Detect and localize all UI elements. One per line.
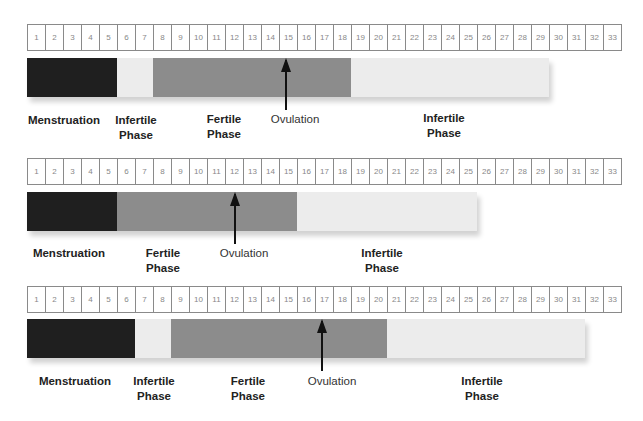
day-cell: 25 bbox=[460, 287, 478, 312]
segment-infertile bbox=[351, 58, 549, 97]
day-cell: 14 bbox=[262, 287, 280, 312]
day-cell: 13 bbox=[244, 25, 262, 50]
day-cell: 9 bbox=[172, 287, 190, 312]
day-cell: 28 bbox=[514, 287, 532, 312]
label-infertile-post: Infertile Phase bbox=[461, 374, 503, 404]
day-cell: 3 bbox=[64, 287, 82, 312]
label-menstruation: Menstruation bbox=[33, 246, 105, 261]
day-cell: 5 bbox=[100, 25, 118, 50]
day-cell: 7 bbox=[136, 287, 154, 312]
segment-fertile bbox=[117, 192, 297, 231]
label-fertile: Fertile Phase bbox=[231, 374, 266, 404]
day-cell: 11 bbox=[208, 287, 226, 312]
day-cell: 15 bbox=[280, 25, 298, 50]
day-cell: 6 bbox=[118, 287, 136, 312]
day-cell: 18 bbox=[334, 25, 352, 50]
day-cell: 25 bbox=[460, 25, 478, 50]
day-cell: 19 bbox=[352, 25, 370, 50]
day-cell: 32 bbox=[586, 25, 604, 50]
day-cell: 19 bbox=[352, 287, 370, 312]
day-cell: 17 bbox=[316, 25, 334, 50]
day-cell: 2 bbox=[46, 25, 64, 50]
day-cell: 10 bbox=[190, 159, 208, 184]
day-cell: 7 bbox=[136, 159, 154, 184]
day-cell: 14 bbox=[262, 159, 280, 184]
day-cell: 23 bbox=[424, 25, 442, 50]
day-cell: 26 bbox=[478, 25, 496, 50]
cycle-bar-3 bbox=[27, 319, 585, 358]
day-cell: 29 bbox=[532, 287, 550, 312]
day-grid-2: 1234567891011121314151617181920212223242… bbox=[27, 158, 622, 185]
day-cell: 6 bbox=[118, 25, 136, 50]
day-cell: 13 bbox=[244, 159, 262, 184]
segment-menstruation bbox=[27, 58, 117, 97]
day-cell: 1 bbox=[28, 25, 46, 50]
day-cell: 22 bbox=[406, 159, 424, 184]
day-cell: 24 bbox=[442, 287, 460, 312]
day-cell: 23 bbox=[424, 159, 442, 184]
ovulation-arrow-icon bbox=[234, 194, 236, 244]
day-cell: 29 bbox=[532, 159, 550, 184]
day-cell: 22 bbox=[406, 25, 424, 50]
day-cell: 27 bbox=[496, 287, 514, 312]
label-infertile-pre: Infertile Phase bbox=[115, 113, 157, 143]
label-infertile-post: Infertile Phase bbox=[361, 246, 403, 276]
day-cell: 23 bbox=[424, 287, 442, 312]
day-cell: 6 bbox=[118, 159, 136, 184]
day-cell: 2 bbox=[46, 287, 64, 312]
day-cell: 33 bbox=[604, 159, 622, 184]
day-cell: 8 bbox=[154, 25, 172, 50]
segment-fertile bbox=[153, 58, 351, 97]
day-cell: 7 bbox=[136, 25, 154, 50]
label-infertile-pre: Infertile Phase bbox=[133, 374, 175, 404]
ovulation-arrow-icon bbox=[321, 321, 323, 371]
day-grid-3: 1234567891011121314151617181920212223242… bbox=[27, 286, 622, 313]
day-cell: 20 bbox=[370, 25, 388, 50]
day-cell: 16 bbox=[298, 287, 316, 312]
day-cell: 16 bbox=[298, 159, 316, 184]
day-cell: 1 bbox=[28, 287, 46, 312]
day-grid-1: 1234567891011121314151617181920212223242… bbox=[27, 24, 622, 51]
day-cell: 18 bbox=[334, 159, 352, 184]
day-cell: 2 bbox=[46, 159, 64, 184]
label-menstruation: Menstruation bbox=[39, 374, 111, 389]
day-cell: 17 bbox=[316, 159, 334, 184]
day-cell: 27 bbox=[496, 25, 514, 50]
day-cell: 31 bbox=[568, 25, 586, 50]
day-cell: 30 bbox=[550, 287, 568, 312]
day-cell: 11 bbox=[208, 159, 226, 184]
label-ovulation: Ovulation bbox=[308, 374, 357, 389]
segment-infertile bbox=[297, 192, 477, 231]
ovulation-arrow-icon bbox=[285, 60, 287, 110]
day-cell: 4 bbox=[82, 25, 100, 50]
day-cell: 4 bbox=[82, 287, 100, 312]
day-cell: 29 bbox=[532, 25, 550, 50]
day-cell: 9 bbox=[172, 25, 190, 50]
day-cell: 33 bbox=[604, 287, 622, 312]
segment-infertile bbox=[387, 319, 585, 358]
day-cell: 20 bbox=[370, 287, 388, 312]
day-cell: 32 bbox=[586, 287, 604, 312]
day-cell: 22 bbox=[406, 287, 424, 312]
day-cell: 10 bbox=[190, 25, 208, 50]
day-cell: 16 bbox=[298, 25, 316, 50]
day-cell: 11 bbox=[208, 25, 226, 50]
day-cell: 12 bbox=[226, 159, 244, 184]
day-cell: 1 bbox=[28, 159, 46, 184]
day-cell: 24 bbox=[442, 25, 460, 50]
day-cell: 21 bbox=[388, 287, 406, 312]
day-cell: 28 bbox=[514, 159, 532, 184]
label-infertile-post: Infertile Phase bbox=[423, 111, 465, 141]
segment-infertile bbox=[135, 319, 171, 358]
day-cell: 33 bbox=[604, 25, 622, 50]
day-cell: 15 bbox=[280, 287, 298, 312]
day-cell: 9 bbox=[172, 159, 190, 184]
day-cell: 26 bbox=[478, 287, 496, 312]
day-cell: 15 bbox=[280, 159, 298, 184]
day-cell: 21 bbox=[388, 25, 406, 50]
day-cell: 10 bbox=[190, 287, 208, 312]
cycle-bar-2 bbox=[27, 192, 477, 231]
segment-infertile bbox=[117, 58, 153, 97]
day-cell: 5 bbox=[100, 287, 118, 312]
day-cell: 20 bbox=[370, 159, 388, 184]
